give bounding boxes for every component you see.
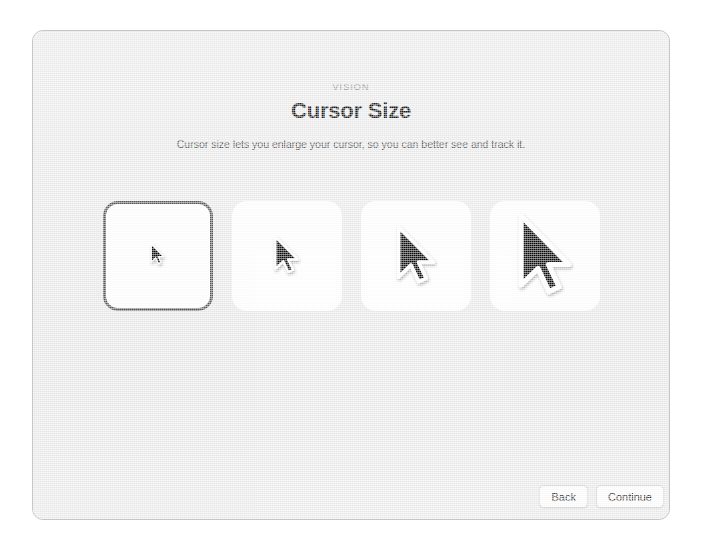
cursor-size-option-3[interactable] — [361, 201, 471, 311]
arrow-cursor-icon — [516, 212, 574, 300]
cursor-size-option-1[interactable] — [103, 201, 213, 311]
window-content: VISION Cursor Size Cursor size lets you … — [33, 31, 669, 519]
cursor-size-options — [33, 201, 669, 311]
screen: VISION Cursor Size Cursor size lets you … — [0, 0, 702, 552]
cursor-size-option-2[interactable] — [232, 201, 342, 311]
continue-button[interactable]: Continue — [596, 485, 664, 508]
header: VISION Cursor Size Cursor size lets you … — [33, 31, 669, 151]
cursor-size-option-4[interactable] — [490, 201, 600, 311]
setup-assistant-window: VISION Cursor Size Cursor size lets you … — [32, 30, 670, 520]
footer-button-group: Back Continue — [539, 485, 664, 508]
arrow-cursor-icon — [395, 224, 437, 289]
category-eyebrow: VISION — [33, 81, 669, 93]
back-button[interactable]: Back — [539, 485, 587, 508]
page-subtitle: Cursor size lets you enlarge your cursor… — [33, 137, 669, 151]
page-title: Cursor Size — [33, 98, 669, 124]
arrow-cursor-icon — [150, 243, 165, 269]
arrow-cursor-icon — [273, 235, 300, 278]
